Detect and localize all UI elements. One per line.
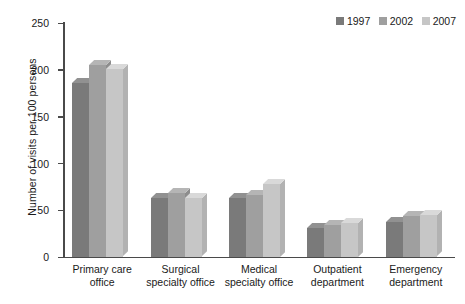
legend-label: 2002 bbox=[390, 16, 413, 26]
bar-face bbox=[403, 216, 420, 256]
x-axis-label-line: department bbox=[371, 276, 461, 289]
bar bbox=[246, 195, 263, 257]
x-axis-label-line: specialty office bbox=[135, 276, 225, 289]
bar-face bbox=[386, 222, 403, 257]
x-axis-label: Emergencydepartment bbox=[371, 263, 461, 288]
x-axis-label-line: specialty office bbox=[214, 276, 304, 289]
x-axis-label-line: Medical bbox=[214, 263, 304, 276]
bar bbox=[185, 198, 202, 256]
y-tick-0: 0 bbox=[58, 257, 63, 259]
bar-face bbox=[420, 215, 437, 256]
bar bbox=[341, 223, 358, 257]
bar bbox=[307, 228, 324, 256]
legend: 199720022007 bbox=[336, 16, 456, 26]
bar bbox=[403, 216, 420, 256]
legend-item: 2002 bbox=[379, 16, 413, 26]
x-axis-label: Primary careoffice bbox=[57, 263, 147, 288]
x-axis-line bbox=[63, 257, 455, 259]
y-tick-label-200: 200 bbox=[31, 64, 49, 76]
y-tick-label-100: 100 bbox=[31, 158, 49, 170]
x-axis-label-line: Surgical bbox=[135, 263, 225, 276]
bar bbox=[324, 225, 341, 257]
bar-face bbox=[106, 69, 123, 256]
x-axis-label: Outpatientdepartment bbox=[292, 263, 382, 288]
plot-area: 250200150100500 bbox=[63, 22, 455, 258]
x-axis-label-line: department bbox=[292, 276, 382, 289]
bar-side bbox=[123, 64, 128, 256]
bar bbox=[229, 198, 246, 256]
bar-side bbox=[437, 210, 442, 256]
x-axis-label: Surgicalspecialty office bbox=[135, 263, 225, 288]
legend-item: 1997 bbox=[336, 16, 370, 26]
legend-label: 1997 bbox=[347, 16, 370, 26]
bar bbox=[106, 69, 123, 256]
bar-group bbox=[386, 23, 442, 257]
y-tick-label-50: 50 bbox=[37, 204, 49, 216]
bar-face bbox=[341, 223, 358, 257]
legend-item: 2007 bbox=[422, 16, 456, 26]
legend-swatch-icon bbox=[336, 17, 344, 25]
x-axis-label: Medicalspecialty office bbox=[214, 263, 304, 288]
bar-face bbox=[307, 228, 324, 256]
bar bbox=[386, 222, 403, 257]
legend-label: 2007 bbox=[433, 16, 456, 26]
bar bbox=[151, 198, 168, 257]
bar-face bbox=[168, 193, 185, 257]
x-axis-label-line: Emergency bbox=[371, 263, 461, 276]
bar-face bbox=[185, 198, 202, 256]
bar-group bbox=[307, 23, 363, 257]
bar-group bbox=[229, 23, 285, 257]
x-axis-label-line: Outpatient bbox=[292, 263, 382, 276]
legend-swatch-icon bbox=[422, 17, 430, 25]
x-axis-label-line: office bbox=[57, 276, 147, 289]
bar-groups bbox=[63, 23, 455, 257]
bar-group bbox=[151, 23, 207, 257]
y-tick-label-250: 250 bbox=[31, 17, 49, 29]
bar-face bbox=[229, 198, 246, 256]
y-tick-label-150: 150 bbox=[31, 111, 49, 123]
bar-face bbox=[263, 184, 280, 257]
bar-side bbox=[280, 179, 285, 257]
bar-face bbox=[246, 195, 263, 257]
y-axis-title: Number of visits per 100 persons bbox=[26, 27, 38, 247]
bar bbox=[89, 65, 106, 257]
bar bbox=[420, 215, 437, 256]
bar-chart: Number of visits per 100 persons 2502001… bbox=[0, 0, 465, 304]
bar-group bbox=[72, 23, 128, 257]
legend-swatch-icon bbox=[379, 17, 387, 25]
x-axis-labels: Primary careofficeSurgicalspecialty offi… bbox=[63, 263, 455, 303]
x-axis-label-line: Primary care bbox=[57, 263, 147, 276]
bar-side bbox=[358, 218, 363, 257]
bar-side bbox=[202, 194, 207, 257]
bar bbox=[263, 184, 280, 257]
bar-face bbox=[89, 65, 106, 257]
bar-face bbox=[151, 198, 168, 257]
bar bbox=[72, 83, 89, 256]
bar bbox=[168, 193, 185, 257]
bar-face bbox=[324, 225, 341, 257]
y-tick-label-0: 0 bbox=[43, 251, 49, 263]
bar-face bbox=[72, 83, 89, 256]
